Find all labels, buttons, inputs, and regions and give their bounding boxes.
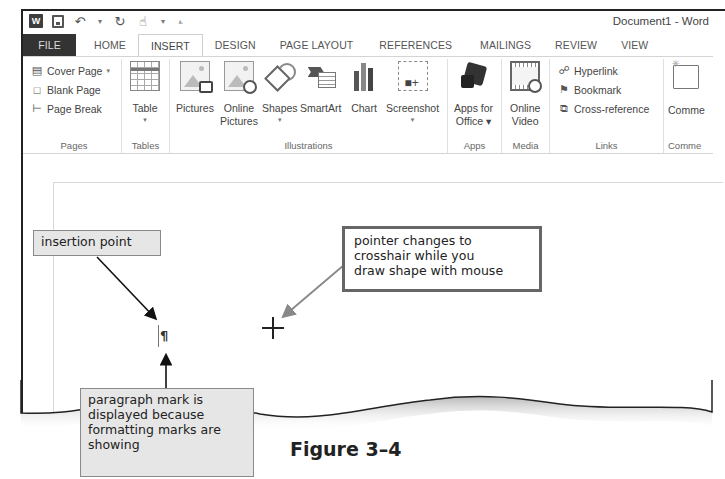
screenshot-label: Screenshot: [386, 102, 439, 115]
group-label-links: Links: [550, 140, 663, 151]
ribbon: ▤ Cover Page ▾ □ Blank Page ⊢ Page Break…: [23, 56, 713, 154]
paragraph-mark: ¶: [160, 328, 168, 343]
group-illustrations: Pictures OnlinePictures Shapes ▾ SmartAr…: [170, 59, 448, 153]
group-label-tables: Tables: [122, 140, 169, 151]
comment-label: Comme: [668, 104, 705, 117]
figure-caption: Figure 3–4: [290, 438, 401, 460]
window-title: Document1 - Word: [613, 15, 709, 27]
chart-label: Chart: [351, 102, 377, 115]
online-pictures-label: OnlinePictures: [220, 102, 258, 128]
cover-page-label: Cover Page: [47, 65, 102, 77]
chevron-down-icon: ▾: [278, 115, 282, 124]
tab-design[interactable]: DESIGN: [203, 34, 268, 56]
crosshair-pointer-icon: [262, 317, 284, 339]
online-pictures-icon: [224, 61, 254, 91]
callout-line: draw shape with mouse: [354, 263, 530, 278]
chart-button[interactable]: Chart: [349, 61, 379, 115]
chart-icon: [349, 61, 379, 91]
tab-page-layout[interactable]: PAGE LAYOUT: [268, 34, 366, 56]
group-label-illustrations: Illustrations: [170, 140, 447, 151]
callout-paragraph-mark: paragraph mark is displayed because form…: [80, 388, 254, 477]
callout-line: crosshair while you: [354, 248, 530, 263]
title-bar: W ↶ ▾ ↻ ☝ ▾ ⫠ Document1 - Word: [23, 11, 713, 33]
group-pages: ▤ Cover Page ▾ □ Blank Page ⊢ Page Break…: [27, 59, 122, 153]
cross-reference-label: Cross-reference: [574, 103, 649, 115]
tab-insert[interactable]: INSERT: [138, 34, 203, 56]
blank-page-label: Blank Page: [47, 84, 101, 96]
page-break-button[interactable]: ⊢ Page Break: [31, 99, 110, 118]
cover-page-icon: ▤: [31, 65, 43, 77]
blank-page-icon: □: [31, 84, 43, 96]
comment-button[interactable]: Comme: [668, 61, 705, 117]
smartart-icon: [306, 61, 336, 91]
cross-reference-icon: ⧉: [558, 103, 570, 115]
online-video-label-2: Video: [512, 115, 539, 128]
screenshot-icon: [398, 61, 428, 91]
group-tables: Table ▾ Tables: [122, 59, 170, 153]
word-logo-icon[interactable]: W: [29, 14, 43, 28]
group-label-comments: Comme: [668, 140, 714, 151]
online-video-icon: [510, 61, 540, 91]
table-button[interactable]: Table ▾: [130, 61, 160, 124]
pictures-icon: [180, 61, 210, 91]
tab-home[interactable]: HOME: [82, 34, 138, 56]
tab-view[interactable]: VIEW: [609, 34, 660, 56]
shapes-label: Shapes: [262, 102, 298, 115]
tab-mailings[interactable]: MAILINGS: [464, 34, 543, 56]
bookmark-label: Bookmark: [574, 84, 621, 96]
chevron-down-icon: ▾: [411, 115, 415, 124]
group-label-pages: Pages: [27, 140, 121, 151]
chevron-down-icon: ▾: [143, 115, 147, 124]
page-break-icon: ⊢: [31, 103, 43, 115]
redo-icon[interactable]: ↻: [113, 14, 127, 28]
callout-line: formatting marks are: [88, 422, 246, 437]
insertion-point-cursor: [158, 325, 159, 347]
shapes-icon: [265, 61, 295, 91]
online-video-button[interactable]: Online Video: [510, 61, 540, 128]
save-icon[interactable]: [52, 15, 64, 28]
tab-references[interactable]: REFERENCES: [365, 34, 464, 56]
group-label-apps: Apps: [448, 140, 501, 151]
group-label-media: Media: [502, 140, 549, 151]
pictures-label: Pictures: [176, 102, 214, 115]
smartart-label: SmartArt: [300, 102, 341, 115]
online-video-label: Online: [510, 102, 540, 115]
undo-dropdown-icon[interactable]: ▾: [96, 14, 104, 28]
chevron-down-icon: ▾: [106, 66, 110, 75]
group-media: Online Video Media: [502, 59, 550, 153]
group-apps: Apps for Office ▾ Apps: [448, 59, 502, 153]
smartart-button[interactable]: SmartArt: [300, 61, 341, 115]
touch-mode-icon[interactable]: ☝: [136, 14, 150, 28]
undo-icon[interactable]: ↶: [73, 14, 87, 28]
ribbon-tabs: FILE HOME INSERT DESIGN PAGE LAYOUT REFE…: [23, 34, 713, 56]
bookmark-icon: ⚑: [558, 84, 570, 96]
callout-line: displayed because: [88, 407, 246, 422]
tab-review[interactable]: REVIEW: [543, 34, 609, 56]
cross-reference-button[interactable]: ⧉ Cross-reference: [558, 99, 649, 118]
quick-access-toolbar: W ↶ ▾ ↻ ☝ ▾ ⫠: [29, 14, 184, 28]
touch-dropdown-icon[interactable]: ▾: [159, 14, 167, 28]
cover-page-button[interactable]: ▤ Cover Page ▾: [31, 61, 110, 80]
apps-for-office-label: Apps for: [454, 102, 493, 115]
callout-line: paragraph mark is: [88, 392, 246, 407]
table-icon: [130, 61, 160, 91]
hyperlink-icon: ☍: [558, 65, 570, 77]
page-break-label: Page Break: [47, 103, 102, 115]
callout-insertion-point: insertion point: [33, 230, 161, 256]
callout-line: pointer changes to: [354, 233, 530, 248]
tab-file[interactable]: FILE: [23, 34, 76, 56]
customize-qat-icon[interactable]: ⫠: [176, 14, 184, 28]
online-pictures-button[interactable]: OnlinePictures: [220, 61, 258, 128]
table-label: Table: [132, 102, 157, 115]
bookmark-button[interactable]: ⚑ Bookmark: [558, 80, 649, 99]
group-comments: Comme Comme: [664, 59, 714, 153]
pictures-button[interactable]: Pictures: [176, 61, 214, 115]
hyperlink-button[interactable]: ☍ Hyperlink: [558, 61, 649, 80]
word-window: W ↶ ▾ ↻ ☝ ▾ ⫠ Document1 - Word FILE HOME…: [21, 9, 725, 419]
blank-page-button[interactable]: □ Blank Page: [31, 80, 110, 99]
shapes-button[interactable]: Shapes ▾: [262, 61, 298, 124]
screenshot-button[interactable]: Screenshot ▾: [386, 61, 439, 124]
group-links: ☍ Hyperlink ⚑ Bookmark ⧉ Cross-reference…: [550, 59, 664, 153]
apps-for-office-button[interactable]: Apps for Office ▾: [454, 61, 493, 128]
comment-icon: [673, 65, 699, 89]
